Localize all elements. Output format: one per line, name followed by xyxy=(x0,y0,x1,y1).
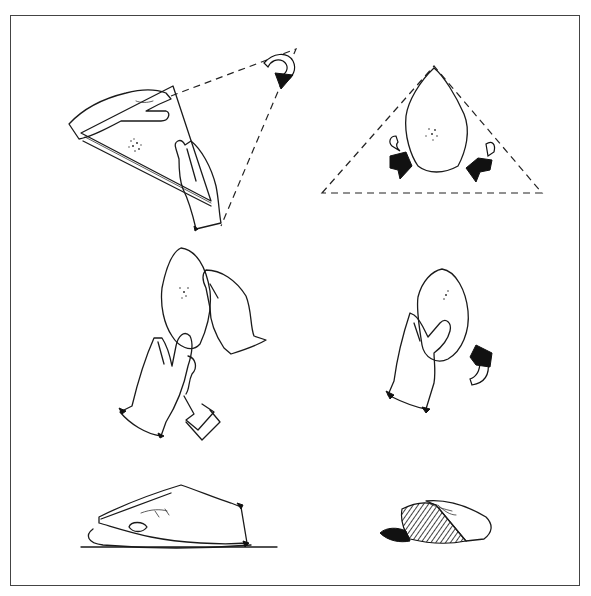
panel-step-6 xyxy=(366,481,506,561)
panel-step-2 xyxy=(316,56,556,206)
panel-step-3 xyxy=(106,236,286,446)
figure-frame xyxy=(10,15,580,586)
clipped-caption xyxy=(0,0,591,5)
panel-step-1 xyxy=(61,41,301,241)
panel-step-5 xyxy=(71,471,291,561)
panel-step-4 xyxy=(376,261,506,421)
